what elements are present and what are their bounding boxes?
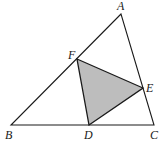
label-a: A xyxy=(116,0,125,13)
label-f: F xyxy=(67,48,76,62)
triangle-diagram: A B C D E F xyxy=(0,0,163,155)
label-d: D xyxy=(83,128,93,142)
inner-triangle-def xyxy=(77,59,143,125)
label-c: C xyxy=(150,128,159,142)
label-b: B xyxy=(5,128,13,142)
label-e: E xyxy=(145,81,154,95)
